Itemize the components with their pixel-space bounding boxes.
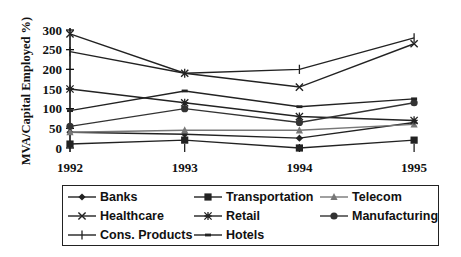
y-tick-label: 200: [43, 62, 63, 77]
legend-item-manufacturing: Manufacturing: [319, 209, 438, 223]
legend-item-transportation: Transportation: [193, 190, 314, 204]
y-tick-label: 300: [43, 23, 63, 38]
y-tick-label: 100: [43, 101, 63, 116]
dash-marker-icon: [193, 230, 223, 240]
x-axis: 1992199319941995: [57, 144, 428, 175]
y-axis-label: MVA/Capital Employed %): [19, 17, 33, 165]
legend-item-cons-products: Cons. Products: [67, 228, 192, 242]
x-tick-label: 1992: [57, 160, 83, 175]
legend-item-hotels: Hotels: [193, 228, 264, 242]
legend-item-banks: Banks: [67, 190, 138, 204]
asterisk-marker-icon: [193, 211, 223, 221]
y-tick-label: 0: [56, 141, 63, 156]
y-tick-label: 150: [43, 82, 63, 97]
triangle-marker-icon: [319, 192, 349, 202]
chart-legend: Banks Transportation Telecom Healthcare …: [62, 185, 439, 246]
series-transportation: [66, 137, 417, 152]
plus-marker-icon: [67, 230, 97, 240]
legend-item-healthcare: Healthcare: [67, 209, 164, 223]
square-marker-icon: [193, 192, 223, 202]
series-manufacturing: [66, 99, 417, 130]
legend-item-retail: Retail: [193, 209, 260, 223]
x-tick-label: 1993: [172, 160, 199, 175]
y-tick-label: 250: [43, 42, 63, 57]
y-tick-label: 50: [49, 121, 62, 136]
x-tick-label: 1994: [286, 160, 313, 175]
x-tick-label: 1995: [401, 160, 428, 175]
x-marker-icon: [67, 211, 97, 221]
line-chart: 050100150200250300MVA/Capital Employed %…: [0, 0, 461, 185]
series-hotels: [67, 90, 417, 112]
circle-marker-icon: [319, 211, 349, 221]
diamond-marker-icon: [67, 192, 97, 202]
series-cons-products: [70, 33, 414, 78]
legend-item-telecom: Telecom: [319, 190, 402, 204]
